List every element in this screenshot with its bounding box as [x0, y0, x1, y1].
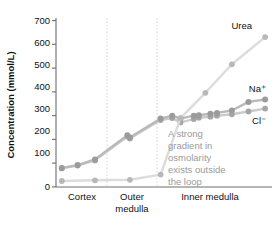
- y-tick-100: 100: [34, 147, 50, 158]
- y-axis-label: Concentration (mmol/L): [5, 51, 16, 158]
- osmolarity-note-line-2: gradient in: [168, 140, 212, 151]
- na-point: [246, 99, 252, 105]
- urea-point: [127, 177, 133, 183]
- na-point: [169, 113, 175, 119]
- urea-point: [92, 177, 98, 183]
- na-series-label: Na⁺: [249, 83, 266, 94]
- y-tick-300: 300: [34, 103, 50, 114]
- cl-point: [262, 106, 268, 112]
- urea-series-label: Urea: [231, 20, 252, 31]
- concentration-gradient-chart: Concentration (mmol/L) 700 600 500 400 3…: [0, 0, 274, 226]
- x-label-inner-medulla: Inner medulla: [181, 191, 239, 202]
- na-point: [229, 108, 235, 114]
- urea-point: [203, 90, 209, 96]
- osmolarity-note-line-4: exists outside: [168, 164, 226, 175]
- na-point: [59, 165, 65, 171]
- y-tick-600: 600: [34, 37, 50, 48]
- y-tick-400: 400: [34, 81, 50, 92]
- na-point: [92, 156, 98, 162]
- urea-point: [158, 172, 164, 178]
- osmolarity-note-line-1: A strong: [168, 128, 203, 139]
- cl-point: [246, 109, 252, 115]
- cl-series-label: Cl⁻: [252, 115, 266, 126]
- na-point: [207, 111, 213, 117]
- chart-container: Concentration (mmol/L) 700 600 500 400 3…: [0, 0, 274, 226]
- y-tick-700: 700: [34, 15, 50, 26]
- osmolarity-note-line-5: the loop: [168, 176, 202, 187]
- y-tick-500: 500: [34, 59, 50, 70]
- urea-point: [229, 61, 235, 67]
- osmolarity-note-line-3: osmolarity: [168, 152, 212, 163]
- x-label-outer-medulla-line2: medulla: [115, 203, 149, 214]
- y-tick-0: 0: [45, 181, 50, 192]
- x-label-cortex: Cortex: [68, 191, 96, 202]
- na-point: [158, 116, 164, 122]
- na-point: [262, 97, 268, 103]
- x-label-outer-medulla-line1: Outer: [120, 191, 144, 202]
- urea-point: [59, 178, 65, 184]
- urea-point: [262, 34, 268, 40]
- na-point: [214, 110, 220, 116]
- na-point: [196, 112, 202, 118]
- y-tick-200: 200: [34, 125, 50, 136]
- na-point: [127, 135, 133, 141]
- na-point: [75, 162, 81, 168]
- urea-point: [178, 115, 184, 121]
